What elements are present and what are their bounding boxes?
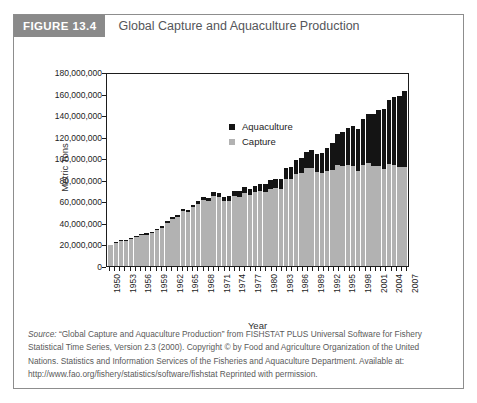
bar-column	[263, 74, 267, 266]
y-tick-label: 180,000,000	[55, 68, 102, 78]
bar-column	[155, 74, 159, 266]
bar-segment-aquaculture	[315, 154, 319, 172]
bar-segment-capture	[191, 207, 195, 266]
chart-area: Metric Tons 020,000,00040,000,00060,000,…	[14, 37, 465, 309]
x-tick-mark	[203, 267, 204, 271]
bar-segment-capture	[139, 235, 143, 266]
y-tick-label: 100,000,000	[55, 154, 102, 164]
bar-segment-aquaculture	[351, 126, 355, 166]
bar-segment-capture	[129, 239, 133, 266]
x-tick-mark	[244, 267, 245, 271]
x-tick-label: 1968	[206, 274, 216, 293]
x-tick-mark	[276, 267, 277, 271]
x-tick-mark	[234, 267, 235, 271]
bar-segment-capture	[242, 193, 246, 266]
bar-column	[309, 74, 313, 266]
bar-segment-aquaculture	[340, 132, 344, 166]
bar-column	[237, 74, 241, 266]
figure-title: Global Capture and Aquaculture Productio…	[105, 15, 359, 37]
y-tick-mark	[102, 116, 106, 117]
y-tick-mark	[102, 224, 106, 225]
bar-segment-aquaculture	[397, 96, 401, 168]
x-tick-label: 1995	[347, 274, 357, 293]
bar-segment-capture	[361, 165, 365, 266]
source-text: “Global Capture and Aquaculture Producti…	[28, 329, 422, 379]
bar-column	[371, 74, 375, 266]
bar-segment-aquaculture	[268, 180, 272, 188]
x-tick-mark	[150, 267, 151, 271]
x-tick-label: 2004	[394, 274, 404, 293]
bar-segment-capture	[346, 165, 350, 266]
x-tick-label: 2001	[379, 274, 389, 293]
bar-column	[232, 74, 236, 266]
x-tick-label: 1962	[175, 274, 185, 293]
x-tick-mark	[187, 267, 188, 271]
bar-segment-capture	[119, 241, 123, 266]
bar-column	[361, 74, 365, 266]
x-tick-mark	[406, 267, 407, 271]
bar-segment-capture	[273, 188, 277, 266]
bar-column	[144, 74, 148, 266]
x-tick-mark	[260, 267, 261, 271]
x-tick-label: 1983	[285, 274, 295, 293]
x-tick-mark	[396, 267, 397, 271]
y-tick-mark	[102, 159, 106, 160]
x-tick-mark	[182, 267, 183, 271]
bar-segment-aquaculture	[258, 184, 262, 191]
x-tick-label: 1971	[222, 274, 232, 293]
bar-segment-aquaculture	[325, 148, 329, 171]
bar-column	[335, 74, 339, 266]
bar-column	[186, 74, 190, 266]
bar-column	[346, 74, 350, 266]
x-tick-mark	[307, 267, 308, 271]
bar-segment-capture	[351, 166, 355, 266]
bar-segment-capture	[144, 235, 148, 266]
bar-segment-aquaculture	[366, 114, 370, 163]
bar-column	[315, 74, 319, 266]
x-tick-mark	[365, 267, 366, 271]
x-tick-mark	[130, 267, 131, 271]
bar-column	[376, 74, 380, 266]
y-tick-mark	[102, 245, 106, 246]
bar-segment-aquaculture	[361, 119, 365, 165]
bar-segment-capture	[186, 212, 190, 266]
bar-segment-aquaculture	[376, 110, 380, 166]
bar-segment-capture	[340, 166, 344, 266]
y-tick-label: 140,000,000	[55, 111, 102, 121]
bar-column	[108, 74, 112, 266]
bar-segment-capture	[263, 192, 267, 266]
bar-column	[304, 74, 308, 266]
bar-segment-capture	[108, 245, 112, 266]
x-tick-mark	[145, 267, 146, 271]
bar-segment-capture	[253, 192, 257, 266]
bar-column	[253, 74, 257, 266]
bar-column	[330, 74, 334, 266]
bar-segment-aquaculture	[335, 134, 339, 165]
bar-column	[242, 74, 246, 266]
bar-segment-capture	[232, 196, 236, 266]
bar-column	[325, 74, 329, 266]
bar-segment-aquaculture	[263, 184, 267, 192]
bar-segment-capture	[114, 243, 118, 266]
x-tick-mark	[318, 267, 319, 271]
x-tick-mark	[213, 267, 214, 271]
y-tick-mark	[102, 202, 106, 203]
bar-segment-aquaculture	[356, 129, 360, 171]
x-tick-mark	[135, 267, 136, 271]
bar-segment-aquaculture	[284, 168, 288, 179]
x-tick-label: 1965	[190, 274, 200, 293]
bar-column	[160, 74, 164, 266]
x-tick-mark	[401, 267, 402, 271]
bar-segment-capture	[258, 191, 262, 266]
x-tick-mark	[114, 267, 115, 271]
bar-segment-aquaculture	[382, 109, 386, 168]
x-tick-mark	[380, 267, 381, 271]
bar-segment-capture	[309, 168, 313, 266]
bar-segment-capture	[150, 233, 154, 266]
y-tick-label: 20,000,000	[59, 240, 102, 250]
bar-column	[299, 74, 303, 266]
x-tick-mark	[271, 267, 272, 271]
y-axis-tick-labels: 020,000,00040,000,00060,000,00080,000,00…	[50, 73, 106, 267]
bar-column	[196, 74, 200, 266]
bar-segment-aquaculture	[320, 153, 324, 173]
